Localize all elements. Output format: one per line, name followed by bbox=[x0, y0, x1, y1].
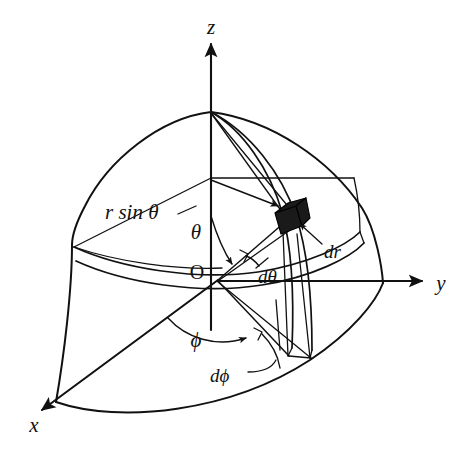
dphi-label: dϕ bbox=[210, 365, 230, 386]
dr-label: dr bbox=[324, 241, 342, 262]
dphi-angle-arc bbox=[262, 334, 280, 368]
pole-chord-to-element-b bbox=[211, 113, 296, 216]
equatorial-disc-rim bbox=[56, 283, 383, 412]
equatorial-ray-phi bbox=[218, 281, 289, 356]
latitude-chord-right-drop bbox=[354, 178, 360, 232]
phi-label: ϕ bbox=[191, 328, 202, 352]
sphere-left-lower-edge bbox=[56, 245, 72, 402]
axis-label-z: z bbox=[206, 15, 215, 39]
theta-angle-arc bbox=[211, 216, 232, 264]
equatorial-footprint-segment bbox=[289, 356, 311, 358]
r-sin-theta-leader-line bbox=[178, 206, 196, 214]
axis-label-x: x bbox=[28, 413, 39, 437]
dphi-leader-line bbox=[248, 360, 276, 372]
equatorial-ray-phi-plus-dphi bbox=[218, 282, 311, 358]
theta-label: θ bbox=[191, 220, 201, 244]
phi-angle-arc bbox=[168, 318, 246, 342]
element-vertical-drop-right bbox=[297, 234, 310, 358]
right-angle-tick-dphi bbox=[254, 328, 262, 340]
meridian-arc-phi-plus-dphi bbox=[211, 112, 312, 350]
axis-label-y: y bbox=[434, 271, 446, 295]
angle-arcs-group bbox=[168, 216, 280, 368]
axes-group bbox=[42, 44, 422, 410]
pole-chord-to-element-a bbox=[211, 113, 282, 212]
dtheta-label: dθ bbox=[258, 266, 277, 287]
r-sin-theta-label: r sin θ bbox=[105, 200, 159, 224]
spherical-coordinates-diagram: z y x O r sin θ θ ϕ dθ dϕ dr bbox=[0, 0, 471, 454]
origin-label: O bbox=[190, 261, 204, 283]
dtheta-angle-arc bbox=[246, 256, 259, 266]
construction-lines-group bbox=[74, 113, 364, 358]
figure-canvas: z y x O r sin θ θ ϕ dθ dϕ dr bbox=[0, 0, 471, 454]
latitude-right-to-axis bbox=[360, 232, 364, 243]
